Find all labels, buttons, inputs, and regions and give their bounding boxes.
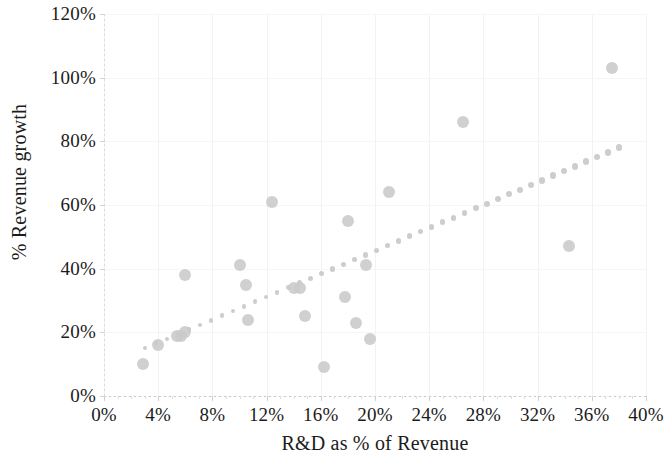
trendline-dot <box>572 163 579 170</box>
y-tick-mark <box>100 78 105 79</box>
data-point <box>299 310 311 322</box>
x-tick-mark-minor <box>131 396 132 399</box>
trendline-dot <box>165 337 169 341</box>
x-tick-mark-minor <box>470 396 471 399</box>
trendline-dot <box>341 262 346 267</box>
data-point <box>234 259 246 271</box>
y-tick-label: 100% <box>10 68 96 87</box>
y-tick-label: 0% <box>10 386 96 405</box>
data-point <box>350 317 362 329</box>
gridline-horizontal <box>104 141 646 142</box>
x-tick-mark-minor <box>294 396 295 399</box>
x-tick-mark <box>375 396 376 401</box>
trendline-dot <box>429 224 435 230</box>
x-axis-title: R&D as % of Revenue <box>104 432 646 455</box>
x-tick-mark <box>483 396 484 401</box>
x-tick-mark-minor <box>226 396 227 399</box>
y-tick-mark <box>100 141 105 142</box>
data-point <box>240 279 252 291</box>
x-tick-mark-minor <box>578 396 579 399</box>
trendline-dot <box>605 149 612 156</box>
x-tick-mark-minor <box>402 396 403 399</box>
x-tick-mark-minor <box>524 396 525 399</box>
x-tick-mark-minor <box>416 396 417 399</box>
data-point <box>360 259 372 271</box>
x-tick-mark-minor <box>551 396 552 399</box>
trendline-dot <box>330 266 335 271</box>
trendline-dot <box>550 172 556 178</box>
trendline-dot <box>473 205 479 211</box>
y-tick-label: 80% <box>10 131 96 150</box>
trendline-dot <box>209 318 214 323</box>
x-tick-mark <box>158 396 159 401</box>
x-tick-mark-minor <box>334 396 335 399</box>
data-point <box>242 314 254 326</box>
x-tick-mark-minor <box>497 396 498 399</box>
x-tick-mark-minor <box>253 396 254 399</box>
y-tick-label: 40% <box>10 259 96 278</box>
x-tick-mark-minor <box>565 396 566 399</box>
x-tick-mark-minor <box>511 396 512 399</box>
trendline-dot <box>583 158 590 165</box>
gridline-horizontal <box>104 14 646 15</box>
x-tick-mark-minor <box>172 396 173 399</box>
x-tick-mark-minor <box>307 396 308 399</box>
trendline-dot <box>374 248 379 253</box>
y-tick-label: 120% <box>10 4 96 23</box>
x-tick-mark-minor <box>605 396 606 399</box>
trendline-dot <box>451 215 457 221</box>
x-tick-label: 40% <box>611 404 668 425</box>
trendline-dot <box>363 252 368 257</box>
trendline-dot <box>495 196 501 202</box>
x-tick-mark-minor <box>280 396 281 399</box>
y-tick-label: 60% <box>10 195 96 214</box>
y-tick-mark <box>100 14 105 15</box>
y-tick-mark <box>100 205 105 206</box>
x-tick-mark <box>267 396 268 401</box>
trendline-dot <box>242 304 247 309</box>
y-tick-label: 20% <box>10 322 96 341</box>
data-point <box>342 215 354 227</box>
x-tick-mark-minor <box>361 396 362 399</box>
data-point <box>266 196 278 208</box>
trendline-dot <box>308 276 313 281</box>
x-tick-mark-minor <box>240 396 241 399</box>
x-tick-mark <box>429 396 430 401</box>
trendline-dot <box>517 187 523 193</box>
x-tick-mark-minor <box>185 396 186 399</box>
trendline-dot <box>319 271 324 276</box>
x-tick-mark <box>538 396 539 401</box>
x-tick-mark-minor <box>389 396 390 399</box>
y-tick-mark <box>100 269 105 270</box>
trendline-dot <box>275 290 280 295</box>
trendline-dot <box>484 201 490 207</box>
trendline-dot <box>396 238 402 244</box>
data-point <box>383 186 395 198</box>
data-point <box>318 361 330 373</box>
x-tick-mark-minor <box>443 396 444 399</box>
x-tick-mark-minor <box>145 396 146 399</box>
x-tick-mark-minor <box>348 396 349 399</box>
trendline-dot <box>220 313 225 318</box>
gridline-vertical <box>646 14 647 396</box>
trendline-dot <box>539 177 545 183</box>
data-point <box>364 333 376 345</box>
y-tick-mark <box>100 396 105 397</box>
x-tick-mark-minor <box>456 396 457 399</box>
trendline-dot <box>528 182 534 188</box>
x-tick-mark-minor <box>199 396 200 399</box>
gridline-horizontal <box>104 78 646 79</box>
y-tick-mark <box>100 332 105 333</box>
x-tick-mark-minor <box>632 396 633 399</box>
x-tick-mark <box>212 396 213 401</box>
x-tick-mark-minor <box>619 396 620 399</box>
x-tick-mark-minor <box>118 396 119 399</box>
x-tick-mark <box>321 396 322 401</box>
x-tick-mark <box>592 396 593 401</box>
gridline-horizontal <box>104 205 646 206</box>
x-tick-mark <box>646 396 647 401</box>
